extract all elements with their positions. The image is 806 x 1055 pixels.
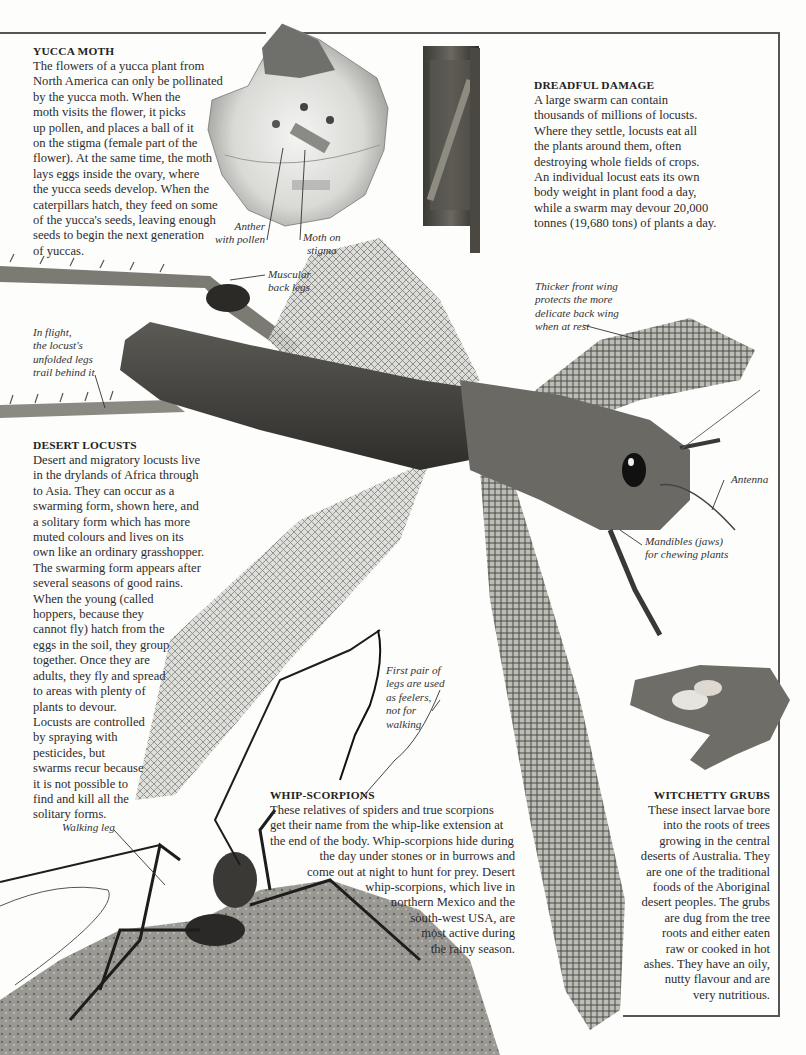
body-line: up pollen, and places a ball of it bbox=[33, 121, 223, 136]
body-line: North America can only be pollinated bbox=[33, 74, 223, 89]
body-line: find and kill all the bbox=[33, 792, 204, 807]
body-line: adults, they fly and spread bbox=[33, 669, 204, 684]
body-line: own like an ordinary grasshopper. bbox=[33, 545, 204, 560]
body-line: the end of the body. Whip-scorpions hide… bbox=[270, 834, 515, 849]
body-line: several seasons of good rains. bbox=[33, 576, 204, 591]
body-line: solitary forms. bbox=[33, 807, 204, 822]
caption-line: not for bbox=[386, 704, 445, 717]
body-line: come out at night to hunt for prey. Dese… bbox=[270, 865, 515, 880]
body-line: When the young (called bbox=[33, 592, 204, 607]
body-line: cannot fly) hatch from the bbox=[33, 622, 204, 637]
caption-line: unfolded legs bbox=[33, 353, 95, 366]
body-line: the yucca seeds develop. When the bbox=[33, 182, 223, 197]
caption-line: back legs bbox=[268, 281, 311, 294]
desert-locusts-heading: DESERT LOCUSTS bbox=[33, 438, 204, 453]
body-line: get their name from the whip-like extens… bbox=[270, 818, 515, 833]
locust-eye bbox=[622, 453, 646, 487]
body-line: ashes. They have an oily, bbox=[620, 957, 770, 972]
body-line: of the yucca's seeds, leaving enough bbox=[33, 213, 223, 228]
body-line: flower). At the same time, the moth bbox=[33, 151, 223, 166]
witchetty-grubs-heading: WITCHETTY GRUBS bbox=[620, 788, 770, 803]
locust-covered-post-image bbox=[423, 46, 480, 253]
caption-line: Muscular bbox=[268, 268, 311, 281]
caption-line: with pollen bbox=[205, 233, 265, 246]
witchetty-grubs-hand-image bbox=[630, 665, 790, 770]
body-line: in the drylands of Africa through bbox=[33, 468, 204, 483]
body-line: are one of the traditional bbox=[620, 865, 770, 880]
caption-line: Anther bbox=[205, 220, 265, 233]
body-line: into the roots of trees bbox=[620, 818, 770, 833]
caption-line: Thicker front wing bbox=[535, 280, 619, 293]
caption-in-flight: In flight, the locust's unfolded legs tr… bbox=[33, 326, 95, 380]
body-line: destroying whole fields of crops. bbox=[534, 155, 716, 170]
body-line: growing in the central bbox=[620, 834, 770, 849]
body-line: moth visits the flower, it picks bbox=[33, 105, 223, 120]
body-line: are dug from the tree bbox=[620, 911, 770, 926]
caption-line: trail behind it bbox=[33, 366, 95, 379]
body-line: pesticides, but bbox=[33, 746, 204, 761]
caption-anther: Anther with pollen bbox=[205, 220, 265, 247]
witchetty-grubs-section: WITCHETTY GRUBS These insect larvae bore… bbox=[620, 788, 770, 1003]
caption-antenna: Antenna bbox=[731, 473, 768, 486]
yucca-flower-image bbox=[208, 24, 388, 226]
body-line: to Asia. They can occur as a bbox=[33, 484, 204, 499]
body-line: most active during bbox=[270, 926, 515, 941]
body-line: eggs in the soil, they group bbox=[33, 638, 204, 653]
body-line: seeds to begin the next generation bbox=[33, 228, 223, 243]
caption-line: as feelers, bbox=[386, 691, 445, 704]
caption-line: the locust's bbox=[33, 339, 95, 352]
body-line: northern Mexico and the bbox=[270, 895, 515, 910]
body-line: swarms recur because bbox=[33, 761, 204, 776]
dreadful-damage-section: DREADFUL DAMAGE A large swarm can contai… bbox=[534, 78, 716, 232]
body-line: it is not possible to bbox=[33, 777, 204, 792]
caption-line: First pair of bbox=[386, 664, 445, 677]
caption-line: legs are used bbox=[386, 677, 445, 690]
caption-first-pair-legs: First pair of legs are used as feelers, … bbox=[386, 664, 445, 731]
caption-line: Antenna bbox=[731, 473, 768, 486]
body-line: tonnes (19,680 tons) of plants a day. bbox=[534, 216, 716, 231]
body-line: whip-scorpions, which live in bbox=[270, 880, 515, 895]
body-line: very nutritious. bbox=[620, 988, 770, 1003]
body-line: swarming form, shown here, and bbox=[33, 499, 204, 514]
body-line: the plants around them, often bbox=[534, 139, 716, 154]
caption-line: Moth on bbox=[303, 231, 341, 244]
body-line: of yuccas. bbox=[33, 244, 223, 259]
body-line: foods of the Aboriginal bbox=[620, 880, 770, 895]
body-line: to areas with plenty of bbox=[33, 684, 204, 699]
dreadful-damage-heading: DREADFUL DAMAGE bbox=[534, 78, 716, 93]
body-line: These relatives of spiders and true scor… bbox=[270, 803, 515, 818]
caption-line: walking bbox=[386, 718, 445, 731]
caption-walking-leg: Walking leg bbox=[62, 821, 115, 834]
caption-line: In flight, bbox=[33, 326, 95, 339]
body-line: together. Once they are bbox=[33, 653, 204, 668]
caption-line: delicate back wing bbox=[535, 307, 619, 320]
body-line: nutty flavour and are bbox=[620, 972, 770, 987]
body-line: on the stigma (female part of the bbox=[33, 136, 223, 151]
yucca-moth-heading: YUCCA MOTH bbox=[33, 44, 223, 59]
caption-moth-on-stigma: Moth on stigma bbox=[303, 231, 341, 258]
body-line: These insect larvae bore bbox=[620, 803, 770, 818]
body-line: roots and either eaten bbox=[620, 926, 770, 941]
body-line: by spraying with bbox=[33, 730, 204, 745]
body-line: deserts of Australia. They bbox=[620, 849, 770, 864]
yucca-moth-section: YUCCA MOTH The flowers of a yucca plant … bbox=[33, 44, 223, 259]
body-line: plants to devour. bbox=[33, 700, 204, 715]
body-line: caterpillars hatch, they feed on some bbox=[33, 198, 223, 213]
body-line: body weight in plant food a day, bbox=[534, 185, 716, 200]
body-line: south-west USA, are bbox=[270, 911, 515, 926]
whip-scorpions-section: WHIP-SCORPIONS These relatives of spider… bbox=[270, 788, 515, 957]
caption-line: when at rest bbox=[535, 320, 619, 333]
body-line: hoppers, because they bbox=[33, 607, 204, 622]
whip-scorpions-heading: WHIP-SCORPIONS bbox=[270, 788, 515, 803]
body-line: a solitary form which has more bbox=[33, 515, 204, 530]
body-line: the rainy season. bbox=[270, 942, 515, 957]
body-line: thousands of millions of locusts. bbox=[534, 108, 716, 123]
body-line: Where they settle, locusts eat all bbox=[534, 124, 716, 139]
desert-locusts-section: DESERT LOCUSTS Desert and migratory locu… bbox=[33, 438, 204, 823]
caption-line: Walking leg bbox=[62, 821, 115, 834]
body-line: A large swarm can contain bbox=[534, 93, 716, 108]
body-line: while a swarm may devour 20,000 bbox=[534, 201, 716, 216]
body-line: Desert and migratory locusts live bbox=[33, 453, 204, 468]
caption-mandibles: Mandibles (jaws) for chewing plants bbox=[645, 535, 728, 562]
caption-line: protects the more bbox=[535, 293, 619, 306]
